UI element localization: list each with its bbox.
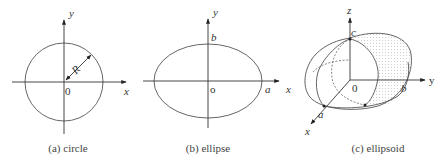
shaded-section	[350, 33, 411, 106]
semi-axis-b-label: b	[401, 82, 407, 94]
panel-ellipsoid: z c 0 b y a x (c) ellipsoid	[304, 4, 435, 155]
point-meridian	[364, 104, 367, 107]
origin-label: o	[210, 83, 216, 95]
geometric-shapes-figure: R 0 x y (a) circle o a b x y (b) ellipse	[0, 0, 442, 167]
x-axis-label: x	[304, 125, 310, 137]
caption-ellipsoid: (c) ellipsoid	[352, 142, 405, 155]
origin-label: 0	[65, 85, 71, 97]
origin-label: 0	[352, 82, 358, 94]
panel-ellipse: o a b x y (b) ellipse	[143, 6, 291, 155]
radius-label: R	[68, 63, 82, 77]
x-axis-label: x	[285, 83, 291, 95]
panel-circle: R 0 x y (a) circle	[12, 7, 129, 155]
caption-circle: (a) circle	[48, 142, 87, 155]
z-axis-label: z	[346, 4, 352, 16]
x-axis-label: x	[123, 85, 129, 97]
semi-axis-a-label: a	[318, 108, 324, 120]
semi-minor-label: b	[211, 31, 217, 43]
y-axis-label: y	[429, 74, 435, 86]
caption-ellipse: (b) ellipse	[186, 142, 230, 155]
y-axis-label: y	[212, 6, 218, 18]
y-axis-label: y	[68, 7, 74, 19]
semi-major-label: a	[265, 83, 271, 95]
semi-axis-c-label: c	[351, 26, 356, 38]
